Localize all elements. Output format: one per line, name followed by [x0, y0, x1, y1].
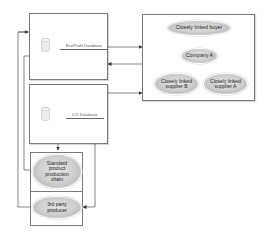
node-supplier-b: Closely linked supplier B — [155, 74, 198, 94]
producers-divider — [30, 191, 83, 192]
ecoprofil-database-box: EcoProfil Database — [29, 13, 108, 80]
lci-database-label: LCI Database — [66, 112, 104, 119]
node-closely-linked-buyer: Closely linked buyer — [168, 21, 230, 35]
database-cylinder-icon — [41, 38, 50, 52]
node-label: producer — [47, 208, 67, 213]
node-label: supplier A — [210, 84, 241, 89]
ecoprofil-database-label: EcoProfil Database — [60, 43, 108, 50]
node-label: chain — [45, 177, 68, 182]
node-standard-production-chain: Standard product production chain — [33, 155, 81, 188]
node-label: Company A — [186, 53, 213, 58]
node-company-a: Company A — [182, 49, 217, 63]
lci-database-box: LCI Database — [29, 84, 108, 144]
database-cylinder-icon — [41, 107, 50, 121]
node-third-party-producer: 3rd party producer — [33, 197, 81, 218]
node-label: supplier B — [161, 84, 192, 89]
node-label: Closely linked buyer — [176, 25, 222, 30]
node-supplier-a: Closely linked supplier A — [204, 74, 247, 94]
